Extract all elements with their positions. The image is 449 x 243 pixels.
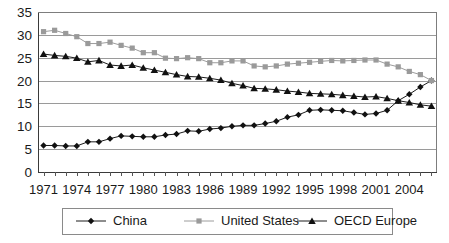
data-point-marker xyxy=(118,133,124,139)
x-axis-tick-label: 1998 xyxy=(328,182,357,197)
data-point-marker xyxy=(218,60,223,65)
data-point-marker xyxy=(251,122,257,128)
x-axis-tick-label: 1989 xyxy=(229,182,258,197)
data-point-marker xyxy=(207,60,212,65)
x-axis-tick-label: 1983 xyxy=(162,182,191,197)
data-point-marker xyxy=(373,57,378,62)
y-axis-tick-label: 25 xyxy=(17,51,32,66)
y-axis-tick-label: 15 xyxy=(17,96,32,111)
data-point-marker xyxy=(373,110,379,116)
data-point-marker xyxy=(351,58,356,63)
data-point-marker xyxy=(417,84,423,90)
data-point-marker xyxy=(41,29,46,34)
y-axis-tick-label: 0 xyxy=(24,165,32,180)
data-point-marker xyxy=(218,125,224,131)
x-axis-tick-label: 1986 xyxy=(195,182,224,197)
data-point-marker xyxy=(273,118,279,124)
data-point-marker xyxy=(129,133,135,139)
plot-frame xyxy=(38,12,437,173)
data-point-marker xyxy=(306,107,312,113)
x-axis-tick-label: 1995 xyxy=(295,182,324,197)
data-point-marker xyxy=(52,28,57,33)
data-point-marker xyxy=(119,43,124,48)
y-axis-tick-label: 35 xyxy=(17,5,32,20)
data-point-marker xyxy=(74,143,80,149)
legend-label: China xyxy=(113,213,148,228)
data-point-marker xyxy=(107,40,112,45)
y-axis-tick-label: 5 xyxy=(24,142,32,157)
data-point-marker xyxy=(285,62,290,67)
data-point-marker xyxy=(63,143,69,149)
data-point-marker xyxy=(128,61,136,68)
data-point-marker xyxy=(317,107,323,113)
data-point-marker xyxy=(184,128,190,134)
data-point-marker xyxy=(130,46,135,51)
data-point-marker xyxy=(162,132,168,138)
data-point-marker xyxy=(429,78,434,83)
data-point-marker xyxy=(318,59,323,64)
data-point-marker xyxy=(185,55,190,60)
data-point-marker xyxy=(152,50,157,55)
data-point-marker xyxy=(351,109,357,115)
data-point-marker xyxy=(174,56,179,61)
legend-marker-square xyxy=(196,218,201,223)
data-point-marker xyxy=(396,64,401,69)
data-point-marker xyxy=(295,112,301,118)
data-point-marker xyxy=(163,56,168,61)
data-point-marker xyxy=(96,41,101,46)
data-point-marker xyxy=(263,64,268,69)
data-point-marker xyxy=(140,134,146,140)
data-point-marker xyxy=(296,61,301,66)
data-point-marker xyxy=(74,34,79,39)
data-point-marker xyxy=(329,58,334,63)
x-axis-tick-label: 1977 xyxy=(96,182,125,197)
data-point-marker xyxy=(340,58,345,63)
series-china xyxy=(40,77,434,149)
chart-legend: ChinaUnited StatesOECD Europe xyxy=(63,209,418,235)
data-point-marker xyxy=(240,58,245,63)
data-point-marker xyxy=(141,50,146,55)
gridlines xyxy=(38,13,437,150)
data-point-marker xyxy=(85,41,90,46)
y-axis-tick-label: 10 xyxy=(17,119,32,134)
x-axis-tick-label: 1974 xyxy=(62,182,91,197)
data-point-marker xyxy=(151,134,157,140)
data-point-marker xyxy=(95,57,103,64)
data-point-marker xyxy=(51,142,57,148)
data-point-marker xyxy=(173,131,179,137)
data-point-marker xyxy=(262,120,268,126)
x-axis-tick-label: 2004 xyxy=(395,182,424,197)
series-us xyxy=(41,28,434,83)
line-chart: 35302520151050 1971197419771980198319861… xyxy=(0,0,449,243)
data-point-marker xyxy=(274,63,279,68)
data-point-marker xyxy=(96,139,102,145)
series-line xyxy=(44,30,432,80)
x-axis-tick-label: 1971 xyxy=(29,182,58,197)
data-point-marker xyxy=(340,108,346,114)
y-axis-tick-labels: 35302520151050 xyxy=(17,5,32,180)
data-point-marker xyxy=(406,91,412,97)
legend-label: United States xyxy=(221,213,300,228)
y-axis-tick-label: 30 xyxy=(17,28,32,43)
data-point-marker xyxy=(107,135,113,141)
data-point-marker xyxy=(362,57,367,62)
data-point-marker xyxy=(106,61,114,68)
x-axis-tick-label: 2001 xyxy=(362,182,391,197)
chart-canvas: 35302520151050 1971197419771980198319861… xyxy=(0,0,449,243)
y-axis-tick-label: 20 xyxy=(17,74,32,89)
data-point-marker xyxy=(229,123,235,129)
data-point-marker xyxy=(240,122,246,128)
data-point-marker xyxy=(284,114,290,120)
data-point-marker xyxy=(196,128,202,134)
data-point-marker xyxy=(252,63,257,68)
legend-label: OECD Europe xyxy=(334,213,417,228)
data-point-marker xyxy=(40,50,48,57)
data-point-marker xyxy=(307,60,312,65)
x-axis-tick-labels: 1971197419771980198319861989199219951998… xyxy=(29,182,424,197)
data-point-marker xyxy=(85,139,91,145)
data-series xyxy=(40,28,435,149)
x-axis-tick-label: 1992 xyxy=(262,182,291,197)
data-point-marker xyxy=(40,142,46,148)
data-point-marker xyxy=(229,58,234,63)
data-point-marker xyxy=(329,107,335,113)
